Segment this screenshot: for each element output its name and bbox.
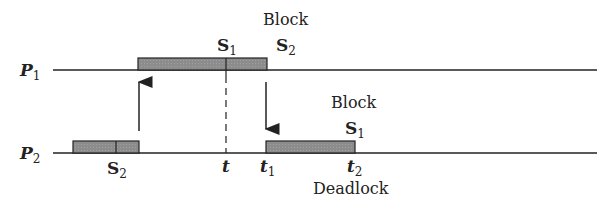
p1-label: P1 [19, 60, 40, 83]
time-t-label: t [222, 156, 230, 176]
p2-execution-bar-2 [266, 141, 355, 153]
deadlock-label: Deadlock [313, 179, 389, 198]
block-label-top: Block [263, 10, 308, 29]
block-label-bottom: Block [331, 93, 376, 112]
p2-s1-label: S1 [345, 118, 365, 141]
p1-s2-label: S2 [276, 35, 296, 58]
deadlock-timing-diagram: P1 P2 Block S1 S2 Block S1 S2 t t1 t2 De… [0, 0, 609, 211]
time-t1-label: t1 [260, 156, 276, 179]
p1-execution-bar [138, 58, 267, 70]
p2-execution-bar-1 [73, 141, 139, 153]
p1-s1-label: S1 [217, 35, 237, 58]
time-t2-label: t2 [347, 156, 363, 179]
p2-s2-label: S2 [107, 158, 127, 181]
p2-label: P2 [19, 143, 40, 166]
diagram-svg: P1 P2 Block S1 S2 Block S1 S2 t t1 t2 De… [0, 0, 609, 211]
